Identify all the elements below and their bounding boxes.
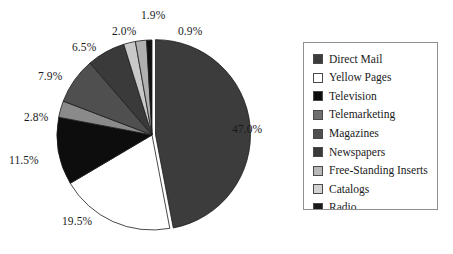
legend-swatch-icon [313, 147, 323, 157]
pie-chart-plot-area: 47.0% 19.5% 11.5% 2.8% 7.9% 6.5% 2.0% 1.… [0, 0, 300, 254]
slice-label-newspapers: 6.5% [72, 41, 96, 53]
slice-label-television: 11.5% [9, 154, 39, 166]
legend-item-label: Free-Standing Inserts [329, 165, 428, 177]
legend-item-label: Television [329, 91, 377, 103]
legend-item[interactable]: Telemarketing [313, 106, 438, 125]
legend-item-label: Yellow Pages [329, 72, 391, 84]
legend-items: Direct MailYellow PagesTelevisionTelemar… [313, 50, 438, 210]
legend-item[interactable]: Free-Standing Inserts [313, 162, 438, 181]
slice-label-catalogs: 1.9% [141, 9, 165, 21]
legend-item-label: Telemarketing [329, 109, 395, 121]
legend-swatch-icon [313, 73, 323, 83]
legend-item[interactable]: Newspapers [313, 143, 438, 162]
legend-item[interactable]: Yellow Pages [313, 69, 438, 88]
legend-item[interactable]: Direct Mail [313, 50, 438, 69]
slice-label-direct-mail: 47.0% [232, 123, 262, 135]
slice-label-radio: 0.9% [178, 25, 202, 37]
legend-swatch-icon [313, 203, 323, 210]
legend-swatch-icon [313, 91, 323, 101]
slice-label-yellow-pages: 19.5% [62, 215, 92, 227]
legend-swatch-icon [313, 166, 323, 176]
legend-item[interactable]: Magazines [313, 124, 438, 143]
legend-item-label: Direct Mail [329, 54, 382, 66]
legend-item[interactable]: Television [313, 87, 438, 106]
legend-swatch-icon [313, 129, 323, 139]
legend-item[interactable]: Catalogs [313, 180, 438, 199]
legend-item[interactable]: Radio [313, 199, 438, 210]
legend-item-label: Catalogs [329, 184, 369, 196]
slice-label-free-standing-inserts: 2.0% [112, 25, 136, 37]
slice-label-telemarketing: 2.8% [24, 111, 48, 123]
legend-item-label: Magazines [329, 128, 379, 140]
legend-item-label: Newspapers [329, 147, 385, 159]
legend: Direct MailYellow PagesTelevisionTelemar… [303, 42, 438, 210]
legend-swatch-icon [313, 110, 323, 120]
slice-label-magazines: 7.9% [38, 70, 62, 82]
legend-swatch-icon [313, 54, 323, 64]
legend-item-label: Radio [329, 202, 356, 210]
legend-swatch-icon [313, 184, 323, 194]
pie-chart-figure: 47.0% 19.5% 11.5% 2.8% 7.9% 6.5% 2.0% 1.… [0, 0, 453, 254]
